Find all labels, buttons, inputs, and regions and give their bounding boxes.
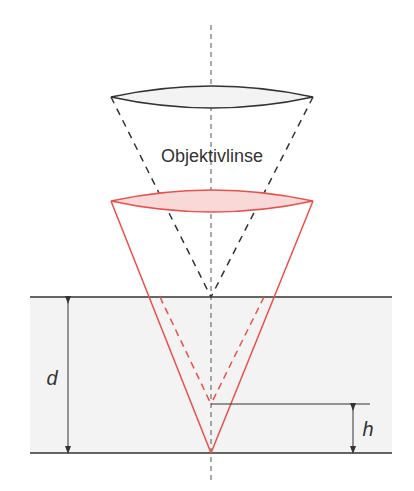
objective-lens-red (111, 190, 313, 212)
depth-label: d (46, 367, 58, 389)
microscopy-diagram: Objektivlinse d h (0, 0, 414, 491)
height-label: h (362, 418, 373, 440)
objective-lens-top (111, 86, 313, 108)
sample-slab (30, 297, 392, 453)
lens-label: Objektivlinse (161, 146, 263, 166)
